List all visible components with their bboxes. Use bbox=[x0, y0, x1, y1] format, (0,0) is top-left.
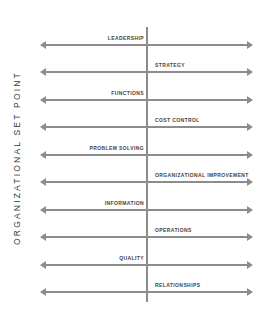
arrow-right-icon bbox=[247, 178, 253, 186]
double-arrow-line bbox=[44, 154, 249, 156]
row-problem-solving: PROBLEM SOLVING bbox=[40, 154, 253, 156]
double-arrow-line bbox=[44, 71, 249, 73]
arrow-right-icon bbox=[247, 41, 253, 49]
label-functions: FUNCTIONS bbox=[111, 90, 144, 96]
row-quality: QUALITY bbox=[40, 264, 253, 266]
arrow-right-icon bbox=[247, 233, 253, 241]
row-strategy: STRATEGY bbox=[40, 71, 253, 73]
row-cost-control: COST CONTROL bbox=[40, 126, 253, 128]
double-arrow-line bbox=[44, 264, 249, 266]
double-arrow-line bbox=[44, 99, 249, 101]
label-relationships: RELATIONSHIPS bbox=[155, 282, 200, 288]
label-leadership: LEADERSHIP bbox=[108, 35, 144, 41]
double-arrow-line bbox=[44, 181, 249, 183]
double-arrow-line bbox=[44, 126, 249, 128]
double-arrow-line bbox=[44, 291, 249, 293]
row-relationships: RELATIONSHIPS bbox=[40, 291, 253, 293]
double-arrow-line bbox=[44, 209, 249, 211]
axis-label-organizational-set-point: ORGANIZATIONAL SET POINT bbox=[12, 71, 22, 245]
row-information: INFORMATION bbox=[40, 209, 253, 211]
label-quality: QUALITY bbox=[119, 255, 144, 261]
row-organizational-improvement: ORGANIZATIONAL IMPROVEMENT bbox=[40, 181, 253, 183]
label-cost-control: COST CONTROL bbox=[155, 117, 200, 123]
arrow-right-icon bbox=[247, 288, 253, 296]
arrow-right-icon bbox=[247, 261, 253, 269]
label-problem-solving: PROBLEM SOLVING bbox=[89, 145, 144, 151]
label-information: INFORMATION bbox=[105, 200, 144, 206]
row-functions: FUNCTIONS bbox=[40, 99, 253, 101]
arrow-right-icon bbox=[247, 68, 253, 76]
row-leadership: LEADERSHIP bbox=[40, 44, 253, 46]
arrow-right-icon bbox=[247, 96, 253, 104]
double-arrow-line bbox=[44, 44, 249, 46]
arrow-right-icon bbox=[247, 123, 253, 131]
row-operations: OPERATIONS bbox=[40, 236, 253, 238]
label-strategy: STRATEGY bbox=[155, 62, 185, 68]
label-organizational-improvement: ORGANIZATIONAL IMPROVEMENT bbox=[155, 172, 249, 178]
arrow-right-icon bbox=[247, 206, 253, 214]
double-arrow-line bbox=[44, 236, 249, 238]
label-operations: OPERATIONS bbox=[155, 227, 192, 233]
arrow-right-icon bbox=[247, 151, 253, 159]
center-vertical-axis bbox=[146, 27, 148, 302]
